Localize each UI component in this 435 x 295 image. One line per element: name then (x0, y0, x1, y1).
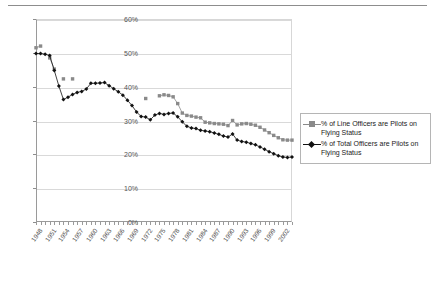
x-axis-tick-mark (118, 222, 119, 225)
data-point-marker (244, 140, 248, 144)
data-point-marker (240, 122, 243, 125)
x-axis-tick-mark (63, 222, 64, 225)
x-axis-tick-mark (137, 222, 138, 225)
x-axis-tick-mark (283, 222, 284, 225)
data-point-marker (226, 124, 229, 127)
x-axis-tick-mark (210, 222, 211, 225)
data-point-marker (176, 102, 179, 105)
x-axis-tick-mark (265, 222, 266, 225)
x-axis-tick-mark (182, 222, 183, 225)
data-point-marker (258, 126, 261, 129)
data-point-marker (222, 123, 225, 126)
x-axis-tick-mark (169, 222, 170, 225)
data-point-marker (267, 131, 270, 134)
data-point-marker (39, 44, 42, 47)
x-axis-tick-mark (141, 222, 142, 225)
data-point-marker (167, 94, 170, 97)
data-point-marker (286, 138, 289, 141)
data-point-marker (162, 112, 166, 116)
data-point-marker (240, 139, 244, 143)
series-line (159, 95, 292, 140)
data-series-layer (36, 19, 292, 222)
x-axis-tick-mark (45, 222, 46, 225)
data-point-marker (290, 138, 293, 141)
data-point-marker (34, 46, 37, 49)
data-point-marker (217, 132, 221, 136)
legend-item-line-officers[interactable]: % of Line Officers are Pilots on Flying … (303, 119, 427, 137)
data-point-marker (281, 155, 285, 159)
x-axis-tick-mark (255, 222, 256, 225)
data-point-marker (93, 81, 97, 85)
x-axis-tick-mark (214, 222, 215, 225)
x-axis-tick-mark (159, 222, 160, 225)
x-axis-tick-mark (223, 222, 224, 225)
data-point-marker (221, 134, 225, 138)
data-point-marker (213, 122, 216, 125)
data-point-marker (281, 138, 284, 141)
x-axis-tick-mark (246, 222, 247, 225)
data-point-marker (80, 89, 84, 93)
x-axis-tick-mark (164, 222, 165, 225)
data-point-marker (254, 124, 257, 127)
data-point-marker (277, 136, 280, 139)
x-axis-tick-mark (109, 222, 110, 225)
data-point-marker (71, 92, 75, 96)
data-point-marker (57, 84, 61, 88)
x-axis-tick-mark (201, 222, 202, 225)
x-axis-tick-mark (292, 222, 293, 225)
x-axis-tick-mark (260, 222, 261, 225)
chart-page: 0%10%20%30%40%50%60% 1948195119541957196… (0, 0, 435, 295)
data-point-marker (253, 143, 257, 147)
data-point-marker (263, 128, 266, 131)
data-point-marker (263, 147, 267, 151)
x-axis-tick-mark (196, 222, 197, 225)
x-axis-tick-mark (68, 222, 69, 225)
legend-marker-diamond-icon (303, 140, 321, 149)
x-axis-tick-mark (278, 222, 279, 225)
data-point-marker (245, 122, 248, 125)
data-point-marker (249, 123, 252, 126)
x-axis-tick-mark (123, 222, 124, 225)
data-point-marker (203, 129, 207, 133)
data-point-marker (61, 98, 65, 102)
header-divider (8, 5, 427, 6)
data-point-marker (181, 111, 184, 114)
x-axis-tick-mark (173, 222, 174, 225)
chart-legend: % of Line Officers are Pilots on Flying … (300, 113, 431, 164)
data-point-marker (189, 126, 193, 130)
x-axis-tick-mark (242, 222, 243, 225)
x-axis-tick-mark (95, 222, 96, 225)
x-axis-tick-mark (50, 222, 51, 225)
data-point-marker (66, 95, 70, 99)
legend-item-total-officers[interactable]: % of Total Officers are Pilots on Flying… (303, 139, 427, 157)
x-axis-tick-mark (127, 222, 128, 225)
data-point-marker (199, 116, 202, 119)
data-point-marker (39, 52, 43, 56)
data-point-marker (71, 77, 74, 80)
legend-marker-square-icon (303, 120, 321, 129)
data-point-marker (43, 52, 47, 56)
x-axis-tick-mark (251, 222, 252, 225)
x-axis-tick-mark (274, 222, 275, 225)
x-axis-tick-mark (77, 222, 78, 225)
x-axis-tick-mark (114, 222, 115, 225)
x-axis-tick-mark (73, 222, 74, 225)
data-point-marker (258, 145, 262, 149)
x-axis-tick-mark (155, 222, 156, 225)
data-point-marker (144, 115, 148, 119)
data-point-marker (98, 81, 102, 85)
legend-label: % of Total Officers are Pilots on Flying… (321, 139, 427, 157)
data-point-marker (249, 142, 253, 146)
x-axis-tick-mark (41, 222, 42, 225)
data-point-marker (167, 111, 171, 115)
x-axis-tick-mark (191, 222, 192, 225)
x-axis-tick-mark (146, 222, 147, 225)
data-point-marker (158, 94, 161, 97)
data-point-marker (162, 93, 165, 96)
x-axis-tick-mark (86, 222, 87, 225)
x-axis-tick-mark (233, 222, 234, 225)
data-point-marker (185, 114, 188, 117)
x-axis-tick-mark (59, 222, 60, 225)
x-axis-tick-mark (287, 222, 288, 225)
data-point-marker (217, 122, 220, 125)
